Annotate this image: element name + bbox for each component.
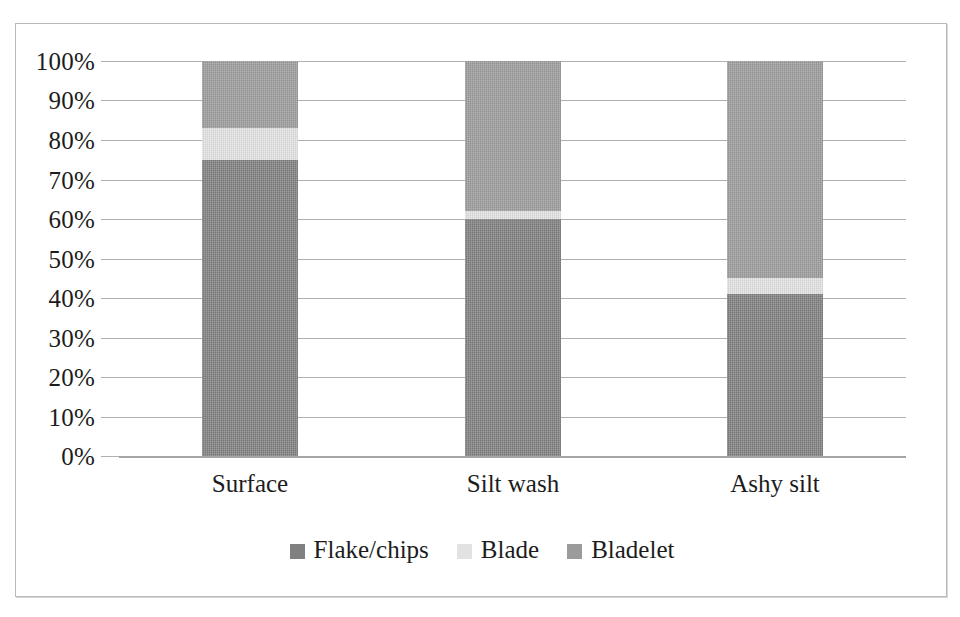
y-axis-label-10: 0%	[61, 444, 95, 469]
y-axis-tick-0	[101, 61, 119, 62]
gridline-0pct	[119, 456, 906, 458]
y-axis-tick-1	[101, 100, 119, 101]
bar-segment-bladelet-2[interactable]	[727, 61, 823, 278]
y-axis-label-0: 100%	[36, 49, 95, 74]
bar-segment-flake-chips-1[interactable]	[465, 219, 561, 456]
bar-segment-flake-chips-2[interactable]	[727, 294, 823, 456]
plot-area: 100%90%80%70%60%50%40%30%20%10%0%	[119, 61, 906, 456]
figure-frame: 100%90%80%70%60%50%40%30%20%10%0% Surfac…	[15, 23, 947, 597]
y-axis-label-4: 60%	[49, 207, 95, 232]
y-axis-label-1: 90%	[49, 88, 95, 113]
bar-segment-blade-1[interactable]	[465, 211, 561, 219]
x-axis-label-0: Surface	[150, 470, 350, 498]
x-axis-label-1-text: Silt wash	[467, 470, 559, 497]
x-axis-label-2-text: Ashy silt	[730, 470, 820, 497]
bar-segment-bladelet-0[interactable]	[202, 61, 298, 128]
y-axis-label-6: 40%	[49, 286, 95, 311]
y-axis-tick-2	[101, 140, 119, 141]
x-axis-label-0-text: Surface	[212, 470, 288, 497]
legend-swatch-blade-icon	[457, 544, 472, 559]
y-axis-label-3: 70%	[49, 168, 95, 193]
bar-segment-flake-chips-0[interactable]	[202, 160, 298, 456]
legend-swatch-flake-chips-icon	[290, 544, 305, 559]
bar-column-0[interactable]	[202, 61, 298, 456]
bar-column-1[interactable]	[465, 61, 561, 456]
legend-label-blade: Blade	[481, 536, 539, 564]
stacked-bar-chart: 100%90%80%70%60%50%40%30%20%10%0% Surfac…	[16, 24, 948, 598]
y-axis-label-9: 10%	[49, 405, 95, 430]
y-axis-label-2: 80%	[49, 128, 95, 153]
y-axis-tick-8	[101, 377, 119, 378]
legend-item-flake-chips: Flake/chips	[290, 536, 429, 564]
y-axis-tick-7	[101, 338, 119, 339]
y-axis-label-5: 50%	[49, 247, 95, 272]
bar-segment-blade-2[interactable]	[727, 278, 823, 294]
y-axis-tick-6	[101, 298, 119, 299]
y-axis-tick-4	[101, 219, 119, 220]
bar-segment-bladelet-1[interactable]	[465, 61, 561, 211]
y-axis-tick-5	[101, 259, 119, 260]
y-axis-tick-10	[101, 456, 119, 457]
y-axis-label-7: 30%	[49, 326, 95, 351]
y-axis-label-8: 20%	[49, 365, 95, 390]
y-axis-tick-9	[101, 417, 119, 418]
legend-swatch-bladelet-icon	[567, 544, 582, 559]
bar-column-2[interactable]	[727, 61, 823, 456]
legend-item-bladelet: Bladelet	[567, 536, 674, 564]
legend-item-blade: Blade	[457, 536, 539, 564]
legend-label-flake-chips: Flake/chips	[314, 536, 429, 564]
legend-label-bladelet: Bladelet	[591, 536, 674, 564]
y-axis-tick-3	[101, 180, 119, 181]
x-axis-label-2: Ashy silt	[675, 470, 875, 498]
bar-segment-blade-0[interactable]	[202, 128, 298, 160]
x-axis-label-1: Silt wash	[413, 470, 613, 498]
chart-legend: Flake/chips Blade Bladelet	[16, 536, 948, 564]
